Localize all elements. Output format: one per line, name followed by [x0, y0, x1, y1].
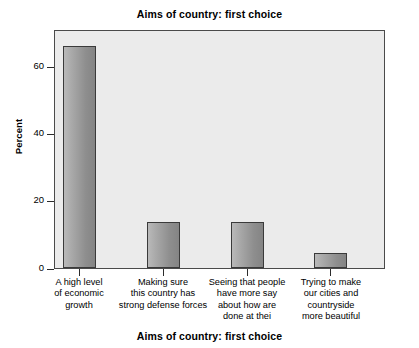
y-tick-mark-20	[47, 201, 54, 202]
x-tick-mark-3	[247, 269, 248, 276]
plot-inner	[55, 31, 384, 268]
y-tick-label-40: 40	[33, 127, 44, 138]
y-tick-label-60: 60	[33, 60, 44, 71]
bar-chart: Aims of country: first choice Percent 60…	[0, 0, 419, 348]
plot-area	[54, 30, 385, 269]
bar-category-3[interactable]	[231, 222, 264, 268]
y-axis-title: Percent	[13, 107, 24, 167]
x-axis-title: Aims of country: first choice	[0, 330, 419, 342]
x-tick-mark-4	[330, 269, 331, 276]
y-tick-label-0: 0	[39, 262, 44, 273]
y-tick-mark-60	[47, 67, 54, 68]
y-tick-label-20: 20	[33, 194, 44, 205]
x-tick-mark-2	[163, 269, 164, 276]
bar-category-1[interactable]	[63, 46, 96, 268]
x-axis-label-4: Trying to make our cities and countrysid…	[285, 277, 377, 323]
bar-category-4[interactable]	[314, 253, 347, 268]
bar-category-2[interactable]	[147, 222, 180, 268]
y-tick-mark-0	[47, 269, 54, 270]
chart-title: Aims of country: first choice	[0, 8, 419, 20]
x-tick-mark-1	[79, 269, 80, 276]
y-tick-mark-40	[47, 134, 54, 135]
